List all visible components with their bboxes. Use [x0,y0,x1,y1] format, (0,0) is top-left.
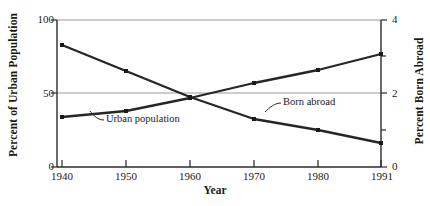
x-tick-marks [62,160,381,167]
gridlines [57,20,381,93]
series-born-abroad-markers [60,43,383,145]
plot-area [0,0,430,206]
chart-figure: Percent of Urban Population Percent Born… [0,0,430,206]
series-born-abroad [60,43,383,145]
